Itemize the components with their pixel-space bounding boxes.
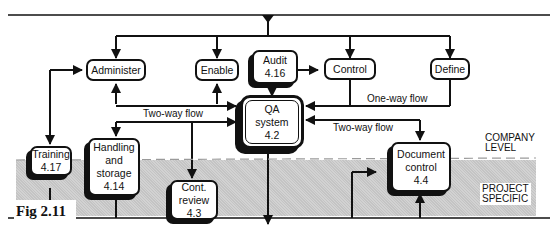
node-cont-review[interactable]: Cont. review 4.3 (170, 180, 218, 220)
node-control[interactable]: Control (324, 58, 376, 80)
flow-label-two-way-right: Two-way flow (333, 122, 393, 133)
node-document-control-line-2: control (405, 161, 437, 174)
zone-label-company-level: COMPANY LEVEL (485, 133, 535, 153)
zone-company-line-2: LEVEL (485, 143, 535, 153)
node-qa-system-line-1: QA (264, 103, 279, 116)
node-administer-line-1: Administer (91, 64, 141, 77)
node-qa-system-line-3: 4.2 (265, 129, 280, 142)
node-enable[interactable]: Enable (195, 59, 239, 81)
figure-label: Fig 2.11 (14, 200, 76, 222)
node-handling-line-1: Handling (93, 141, 134, 154)
node-define-line-1: Define (435, 63, 465, 76)
node-enable-line-1: Enable (201, 64, 234, 77)
node-audit[interactable]: Audit 4.16 (252, 50, 298, 84)
node-handling-line-3: storage (96, 167, 131, 180)
zone-project-line-2: SPECIFIC (482, 194, 529, 204)
node-handling-storage[interactable]: Handling and storage 4.14 (88, 138, 140, 196)
node-qa-system[interactable]: QA system 4.2 (240, 95, 304, 149)
zone-label-project-specific: PROJECT SPECIFIC (480, 183, 531, 205)
node-handling-line-4: 4.14 (104, 180, 124, 193)
node-training-line-1: Training (32, 148, 70, 161)
node-document-control-line-3: 4.4 (414, 174, 429, 187)
node-handling-line-2: and (105, 154, 123, 167)
node-document-control[interactable]: Document control 4.4 (391, 142, 451, 192)
node-audit-line-1: Audit (263, 54, 287, 67)
node-cont-review-line-2: review (179, 194, 209, 207)
flow-label-one-way: One-way flow (367, 93, 428, 104)
node-training-line-2: 4.17 (41, 161, 61, 174)
node-control-line-1: Control (333, 63, 367, 76)
node-document-control-line-1: Document (397, 148, 445, 161)
node-cont-review-line-3: 4.3 (187, 207, 202, 220)
node-define[interactable]: Define (430, 58, 470, 80)
node-cont-review-line-1: Cont. (181, 181, 206, 194)
node-administer[interactable]: Administer (86, 59, 146, 81)
flow-label-two-way-left: Two-way flow (143, 108, 203, 119)
node-qa-system-inner: QA system 4.2 (245, 100, 299, 144)
node-training[interactable]: Training 4.17 (30, 146, 72, 176)
diagram: Administer Enable Audit 4.16 Control Def… (0, 0, 555, 236)
node-audit-line-2: 4.16 (265, 67, 285, 80)
node-qa-system-line-2: system (255, 116, 288, 129)
